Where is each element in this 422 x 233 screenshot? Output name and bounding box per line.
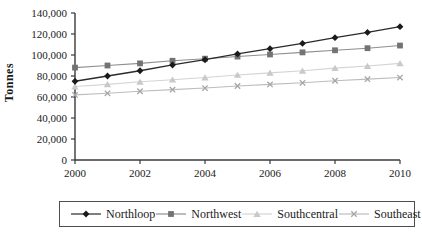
data-point-northloop-2006 bbox=[267, 45, 274, 52]
legend-sample-marker bbox=[83, 211, 90, 218]
legend-label: Southeast bbox=[374, 207, 421, 222]
y-tick-label: 100,000 bbox=[31, 49, 67, 61]
legend-item-northloop: Northloop bbox=[70, 207, 155, 222]
data-point-northwest-2001 bbox=[105, 63, 111, 69]
y-tick-label: 80,000 bbox=[37, 70, 68, 82]
x-tick-label: 2000 bbox=[64, 167, 87, 179]
data-point-northloop-2000 bbox=[72, 78, 79, 85]
legend-item-southeast: Southeast bbox=[338, 207, 421, 222]
y-tick-label: 0 bbox=[62, 154, 68, 166]
data-point-northwest-2010 bbox=[397, 43, 403, 49]
legend-marker-triangle-icon bbox=[241, 209, 273, 219]
x-tick-label: 2002 bbox=[129, 167, 151, 179]
legend-sample-marker bbox=[168, 211, 174, 217]
y-tick-label: 40,000 bbox=[37, 112, 68, 124]
x-tick-label: 2008 bbox=[324, 167, 347, 179]
line-chart-figure: Tonnes 020,00040,00060,00080,000100,0001… bbox=[0, 0, 422, 233]
data-point-northloop-2008 bbox=[332, 34, 339, 41]
x-tick-label: 2010 bbox=[389, 167, 412, 179]
x-tick-label: 2006 bbox=[259, 167, 282, 179]
data-point-northloop-2007 bbox=[299, 40, 306, 47]
y-tick-label: 140,000 bbox=[31, 7, 67, 19]
legend-label: Southcentral bbox=[277, 207, 338, 222]
data-point-northloop-2009 bbox=[364, 29, 371, 36]
legend-marker-square-icon bbox=[155, 209, 187, 219]
data-point-northwest-2006 bbox=[267, 52, 273, 58]
data-point-northwest-2009 bbox=[365, 45, 371, 51]
plot-area: 020,00040,00060,00080,000100,000120,0001… bbox=[0, 0, 422, 233]
legend-label: Northwest bbox=[191, 207, 241, 222]
legend: NorthloopNorthwestSouthcentralSoutheast bbox=[59, 201, 415, 227]
legend-item-northwest: Northwest bbox=[155, 207, 241, 222]
data-point-northwest-2002 bbox=[137, 61, 143, 67]
y-tick-label: 120,000 bbox=[31, 28, 67, 40]
data-point-northwest-2007 bbox=[300, 49, 306, 55]
y-tick-label: 60,000 bbox=[37, 91, 68, 103]
legend-item-southcentral: Southcentral bbox=[241, 207, 338, 222]
data-point-northwest-2000 bbox=[72, 65, 78, 71]
data-point-northloop-2002 bbox=[137, 67, 144, 74]
legend-label: Northloop bbox=[106, 207, 155, 222]
x-tick-label: 2004 bbox=[194, 167, 217, 179]
y-tick-label: 20,000 bbox=[37, 133, 68, 145]
legend-marker-x-icon bbox=[338, 209, 370, 219]
data-point-northloop-2010 bbox=[397, 23, 404, 30]
data-point-northwest-2008 bbox=[332, 47, 338, 53]
legend-marker-diamond-icon bbox=[70, 209, 102, 219]
data-point-northloop-2001 bbox=[104, 73, 111, 80]
